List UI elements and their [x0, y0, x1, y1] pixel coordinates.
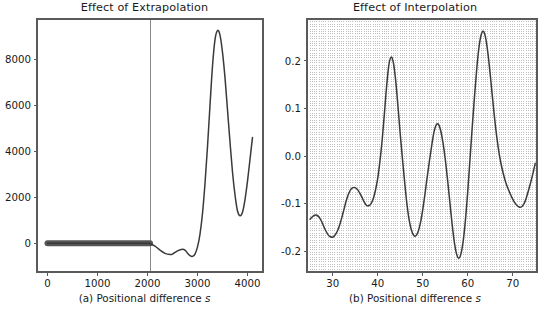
- svg-text:60: 60: [461, 278, 474, 289]
- svg-text:-0.2: -0.2: [281, 246, 301, 257]
- svg-text:40: 40: [371, 278, 384, 289]
- svg-text:4000: 4000: [235, 278, 261, 289]
- panel-a-plot: 0100020003000400002000400060008000: [0, 0, 275, 312]
- panel-b-xlabel-var: s: [476, 292, 481, 304]
- svg-text:1000: 1000: [85, 278, 111, 289]
- svg-text:8000: 8000: [5, 54, 31, 65]
- svg-text:0: 0: [44, 278, 50, 289]
- panel-b-plot: 3040506070-0.2-0.10.00.10.2: [275, 0, 549, 312]
- panel-a-xlabel-var: s: [205, 292, 210, 304]
- svg-text:0.2: 0.2: [285, 56, 301, 67]
- panel-a-xlabel: (a) Positional difference s: [0, 292, 275, 304]
- svg-text:-0.1: -0.1: [281, 198, 301, 209]
- svg-text:70: 70: [506, 278, 519, 289]
- svg-text:2000: 2000: [135, 278, 161, 289]
- svg-text:30: 30: [326, 278, 339, 289]
- panel-a-xlabel-text: (a) Positional difference: [79, 292, 205, 304]
- svg-text:0.0: 0.0: [285, 151, 301, 162]
- svg-text:0: 0: [25, 238, 31, 249]
- panel-b-xlabel-text: (b) Positional difference: [349, 292, 475, 304]
- panel-interpolation: Effect of Interpolation 3040506070-0.2-0…: [275, 0, 549, 312]
- svg-text:3000: 3000: [185, 278, 211, 289]
- svg-text:2000: 2000: [5, 192, 31, 203]
- figure-container: Effect of Extrapolation 0100020003000400…: [0, 0, 549, 312]
- panel-b-xlabel: (b) Positional difference s: [275, 292, 549, 304]
- svg-text:4000: 4000: [5, 146, 31, 157]
- svg-text:50: 50: [416, 278, 429, 289]
- svg-text:6000: 6000: [5, 100, 31, 111]
- panel-extrapolation: Effect of Extrapolation 0100020003000400…: [0, 0, 275, 312]
- svg-text:0.1: 0.1: [285, 103, 301, 114]
